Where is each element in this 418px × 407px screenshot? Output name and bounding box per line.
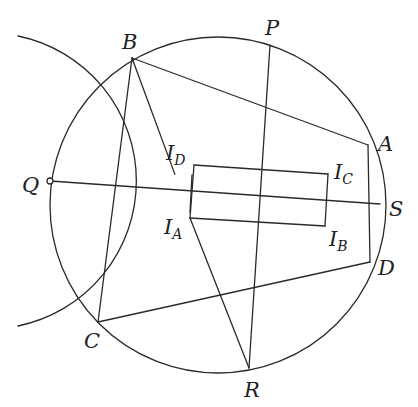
- label-b: B: [121, 30, 137, 54]
- point-q-marker-icon: [47, 178, 53, 184]
- segment-c-d: [98, 262, 370, 322]
- label-id: ID: [165, 141, 186, 168]
- label-ic: IC: [333, 160, 353, 187]
- diagram-canvas: BPASDRCQIDICIBIA: [0, 0, 418, 407]
- label-d: D: [377, 256, 395, 280]
- label-c: C: [84, 329, 100, 353]
- segment-b-a: [132, 58, 368, 145]
- label-p: P: [264, 16, 280, 40]
- diagram-shapes: [18, 36, 386, 373]
- circumcircle: [50, 37, 386, 373]
- segment-id-ic: [194, 165, 328, 174]
- geometry-diagram: BPASDRCQIDICIBIA: [0, 0, 418, 407]
- segment-b-c: [98, 58, 132, 322]
- label-a: A: [376, 132, 393, 156]
- label-q: Q: [22, 173, 39, 197]
- label-ia: IA: [163, 215, 182, 242]
- segment-p-r: [249, 45, 270, 368]
- label-r: R: [243, 378, 260, 402]
- label-s: S: [389, 197, 403, 221]
- label-ib: IB: [328, 227, 348, 254]
- segment-q-s: [50, 181, 380, 204]
- segment-ib-ia: [190, 218, 325, 226]
- diagram-labels: BPASDRCQIDICIBIA: [22, 16, 403, 402]
- segment-ia-r: [190, 218, 249, 368]
